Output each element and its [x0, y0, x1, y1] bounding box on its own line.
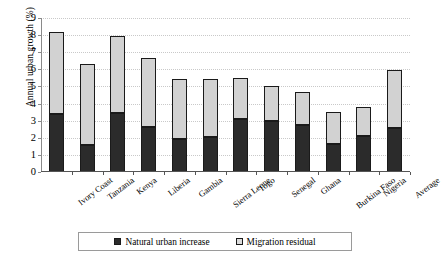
bar-segment-migration [326, 112, 341, 144]
bar-segment-natural [233, 119, 248, 172]
y-tick-label: 0 [31, 167, 36, 178]
bar-segment-natural [387, 128, 402, 172]
bar-stack [233, 18, 248, 172]
legend-entry: Migration residual [236, 237, 316, 247]
x-axis-label: Gambia [197, 175, 225, 199]
bar-stack [172, 18, 187, 172]
bar-segment-natural [326, 144, 341, 172]
bar-segment-migration [387, 70, 402, 128]
legend-swatch-natural [114, 238, 121, 245]
y-tick-label: 2 [31, 133, 36, 144]
legend-label: Natural urban increase [125, 237, 209, 247]
bar-segment-migration [233, 78, 248, 119]
bar-stack [203, 18, 218, 172]
legend-entry: Natural urban increase [114, 237, 209, 247]
bar-segment-natural [80, 145, 95, 172]
bar-segment-natural [141, 127, 156, 172]
bar-stack [49, 18, 64, 172]
bar-stack [387, 18, 402, 172]
bars-layer [41, 18, 410, 172]
bar-segment-migration [295, 92, 310, 125]
bar-segment-migration [356, 107, 371, 136]
bar-segment-migration [141, 58, 156, 126]
bar-stack [326, 18, 341, 172]
y-tick-label: 8 [31, 30, 36, 41]
bar-segment-natural [172, 139, 187, 172]
y-tick-label: 9 [31, 13, 36, 24]
bar-segment-migration [172, 79, 187, 139]
x-axis-labels: Ivory CoastTanzaniaKenyaLiberiaGambiaSie… [41, 172, 410, 224]
bar-segment-natural [356, 136, 371, 172]
x-axis-label: Senegal [289, 175, 317, 199]
plot-area: 0123456789 [41, 18, 410, 172]
bar-segment-natural [49, 114, 64, 172]
y-tick-label: 6 [31, 64, 36, 75]
bar-segment-migration [49, 32, 64, 114]
y-tick-label: 4 [31, 98, 36, 109]
x-tick-mark [410, 172, 411, 175]
chart-legend: Natural urban increaseMigration residual [78, 232, 352, 251]
bar-stack [295, 18, 310, 172]
bar-stack [141, 18, 156, 172]
bar-segment-natural [295, 125, 310, 172]
x-axis-label: Ghana [319, 175, 343, 196]
bar-stack [80, 18, 95, 172]
x-axis-label: Liberia [166, 175, 192, 198]
bar-segment-natural [203, 137, 218, 172]
y-tick-label: 5 [31, 81, 36, 92]
y-tick-label: 1 [31, 150, 36, 161]
bar-segment-migration [80, 64, 95, 145]
bar-stack [356, 18, 371, 172]
x-axis-label: Average [412, 175, 441, 200]
legend-label: Migration residual [247, 237, 316, 247]
bar-segment-natural [110, 113, 125, 172]
bar-segment-migration [264, 86, 279, 120]
x-axis-label: Kenya [134, 175, 158, 196]
y-tick-label: 7 [31, 47, 36, 58]
bar-segment-migration [203, 79, 218, 137]
bar-segment-natural [264, 121, 279, 172]
bar-segment-migration [110, 36, 125, 113]
bar-stack [264, 18, 279, 172]
bar-stack [110, 18, 125, 172]
y-tick-label: 3 [31, 115, 36, 126]
legend-swatch-migration [236, 238, 243, 245]
